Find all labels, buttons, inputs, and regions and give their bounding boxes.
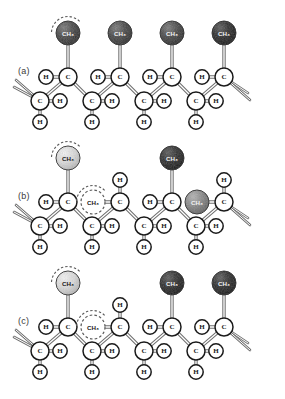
svg-text:H: H xyxy=(117,176,123,184)
hydrogen-atom: H xyxy=(105,219,119,233)
carbon-atom-backbone: C xyxy=(163,193,181,211)
svg-text:H: H xyxy=(147,73,153,81)
hydrogen-atom: H xyxy=(113,298,127,312)
svg-text:C: C xyxy=(117,198,122,206)
methyl-group-sphere: CH₃ xyxy=(56,271,80,295)
hydrogen-atom: H xyxy=(137,240,151,254)
carbon-atom-backbone: C xyxy=(111,193,129,211)
carbon-atom-backbone: C xyxy=(135,92,153,110)
svg-text:H: H xyxy=(43,198,49,206)
hydrogen-atom: H xyxy=(157,344,171,358)
svg-text:C: C xyxy=(117,73,122,81)
svg-text:C: C xyxy=(221,198,226,206)
svg-text:CH₃: CH₃ xyxy=(62,280,74,287)
svg-text:H: H xyxy=(117,301,123,309)
carbon-atom-backbone: C xyxy=(83,92,101,110)
svg-text:CH₃: CH₃ xyxy=(87,199,99,206)
methyl-group-sphere: CH₃ xyxy=(160,146,184,170)
carbon-atom-backbone: C xyxy=(59,68,77,86)
carbon-atom-backbone: C xyxy=(187,217,205,235)
svg-text:CH₃: CH₃ xyxy=(166,30,178,37)
svg-text:H: H xyxy=(193,243,199,251)
svg-text:H: H xyxy=(213,347,219,355)
carbon-atom-backbone: C xyxy=(215,318,233,336)
svg-text:C: C xyxy=(141,97,146,105)
hydrogen-atom: H xyxy=(33,115,47,129)
svg-text:H: H xyxy=(43,323,49,331)
svg-text:CH₃: CH₃ xyxy=(218,30,230,37)
svg-text:H: H xyxy=(199,323,205,331)
svg-text:C: C xyxy=(65,323,70,331)
svg-text:H: H xyxy=(109,347,115,355)
svg-text:H: H xyxy=(57,347,63,355)
methyl-group-sphere: CH₃ xyxy=(185,190,209,214)
svg-text:H: H xyxy=(57,97,63,105)
carbon-atom-backbone: C xyxy=(83,217,101,235)
hydrogen-atom: H xyxy=(195,320,209,334)
svg-text:C: C xyxy=(141,347,146,355)
hydrogen-atom: H xyxy=(105,94,119,108)
hydrogen-atom: H xyxy=(209,219,223,233)
hydrogen-atom: H xyxy=(209,94,223,108)
hydrogen-atom: H xyxy=(143,320,157,334)
svg-text:H: H xyxy=(193,118,199,126)
methyl-group-sphere: CH₃ xyxy=(108,21,132,45)
carbon-atom-backbone: C xyxy=(59,193,77,211)
svg-text:CH₃: CH₃ xyxy=(62,155,74,162)
hydrogen-atom: H xyxy=(209,344,223,358)
svg-text:H: H xyxy=(147,323,153,331)
svg-text:C: C xyxy=(169,198,174,206)
svg-text:H: H xyxy=(147,198,153,206)
polypropylene-configuration-figure: (a) (b) (c) xyxy=(0,0,285,399)
hydrogen-atom: H xyxy=(157,219,171,233)
svg-text:H: H xyxy=(109,97,115,105)
svg-text:H: H xyxy=(141,118,147,126)
svg-text:H: H xyxy=(213,97,219,105)
hydrogen-atom: H xyxy=(143,70,157,84)
hydrogen-atom: H xyxy=(39,320,53,334)
svg-text:H: H xyxy=(141,368,147,376)
svg-text:C: C xyxy=(89,347,94,355)
panel-a-molecule: HHHHHHHHHHHHCCCCCCCCCH₃CH₃CH₃CH₃ xyxy=(14,17,250,130)
methyl-group-dashed: CH₃ xyxy=(81,315,105,339)
svg-text:C: C xyxy=(89,97,94,105)
hydrogen-atom: H xyxy=(85,115,99,129)
hydrogen-atom: H xyxy=(39,70,53,84)
hydrogen-atom: H xyxy=(189,240,203,254)
svg-text:H: H xyxy=(161,347,167,355)
svg-text:H: H xyxy=(221,176,227,184)
svg-text:H: H xyxy=(161,97,167,105)
carbon-atom-backbone: C xyxy=(215,193,233,211)
carbon-atom-backbone: C xyxy=(31,342,49,360)
svg-text:CH₃: CH₃ xyxy=(218,280,230,287)
svg-text:CH₃: CH₃ xyxy=(87,324,99,331)
hydrogen-atom: H xyxy=(189,365,203,379)
svg-text:C: C xyxy=(193,97,198,105)
svg-text:C: C xyxy=(37,222,42,230)
hydrogen-atom: H xyxy=(39,195,53,209)
svg-text:C: C xyxy=(65,198,70,206)
svg-text:C: C xyxy=(193,347,198,355)
carbon-atom-backbone: C xyxy=(31,217,49,235)
hydrogen-atom: H xyxy=(143,195,157,209)
svg-text:H: H xyxy=(199,73,205,81)
svg-text:H: H xyxy=(89,118,95,126)
svg-text:CH₃: CH₃ xyxy=(166,280,178,287)
svg-text:C: C xyxy=(89,222,94,230)
svg-text:H: H xyxy=(37,368,43,376)
svg-text:C: C xyxy=(37,97,42,105)
svg-text:H: H xyxy=(141,243,147,251)
carbon-atom-backbone: C xyxy=(135,342,153,360)
svg-text:CH₃: CH₃ xyxy=(191,199,203,206)
svg-text:CH₃: CH₃ xyxy=(166,155,178,162)
molecule-diagram-canvas: HHHHHHHHHHHHCCCCCCCCCH₃CH₃CH₃CH₃HHHHHHHH… xyxy=(0,0,285,399)
svg-text:C: C xyxy=(37,347,42,355)
carbon-atom-backbone: C xyxy=(163,318,181,336)
carbon-atom-backbone: C xyxy=(59,318,77,336)
panel-b-molecule: HHHHHHHHHHHHCCCCCCCCCH₃CH₃CH₃CH₃ xyxy=(14,142,250,255)
panel-c-molecule: HHHHHHHHHHHHCCCCCCCCCH₃CH₃CH₃CH₃ xyxy=(14,267,250,380)
hydrogen-atom: H xyxy=(189,115,203,129)
svg-text:H: H xyxy=(109,222,115,230)
hydrogen-atom: H xyxy=(85,365,99,379)
methyl-group-sphere: CH₃ xyxy=(56,21,80,45)
